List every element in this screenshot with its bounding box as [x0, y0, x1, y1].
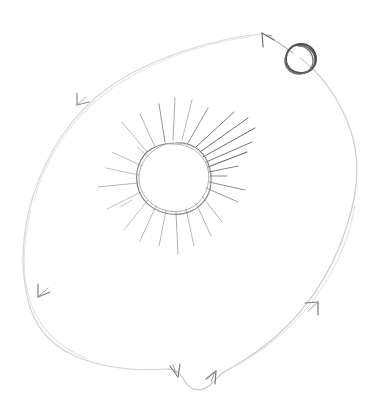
sun-ray [209, 182, 245, 190]
orbit-arrowheads-group [38, 33, 318, 384]
arrow-top-icon [262, 33, 274, 47]
sun-ray [188, 108, 208, 143]
sun-ray [203, 128, 255, 157]
sun-ray [107, 192, 141, 209]
sun-ray [159, 104, 165, 142]
sun-rays-group [98, 98, 255, 254]
sun-ray [173, 98, 175, 140]
sun-outline-overdraw [139, 144, 209, 212]
sun-ray [124, 200, 148, 230]
sun-ray [140, 206, 156, 241]
sun-ray [122, 122, 147, 152]
arrow-bottom-left-icon [170, 364, 180, 377]
arrow-left-icon [38, 284, 50, 297]
sun-ray [182, 100, 192, 140]
arrow-upper-left-icon [77, 93, 89, 105]
orbit-path-overdraw-lower-left [24, 210, 88, 359]
sun-ray [186, 209, 194, 246]
sun-ray [98, 183, 138, 187]
drawing-surface [0, 0, 373, 411]
sun-ray [206, 188, 238, 202]
orbit-path-overdraw-lower-right [232, 205, 355, 368]
orbit-path-right [224, 58, 357, 372]
sun-ray [208, 152, 247, 167]
sun-outline [137, 143, 212, 215]
sun-ray [159, 211, 166, 246]
orbit-path-main [23, 34, 262, 370]
sketch-canvas [0, 0, 373, 411]
sun-body-group [137, 143, 212, 215]
arrow-bottom-right-icon [206, 371, 216, 384]
sun-ray [112, 152, 142, 166]
sun-ray [196, 203, 211, 236]
sun-ray [106, 168, 139, 175]
sun-ray [140, 114, 155, 147]
sun-ray [209, 166, 238, 172]
sun-ray [176, 212, 178, 254]
